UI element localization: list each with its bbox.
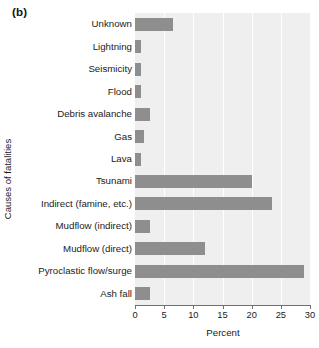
bar — [135, 18, 173, 31]
gridline — [223, 13, 224, 305]
x-axis-tick — [310, 305, 311, 309]
bar — [135, 287, 150, 300]
category-label: Pyroclastic flow/surge — [16, 266, 132, 276]
x-axis-tick-label: 15 — [217, 310, 227, 320]
y-axis-title: Causes of fatalities — [0, 104, 15, 254]
bar — [135, 130, 144, 143]
category-label: Mudflow (indirect) — [16, 221, 132, 231]
gridline — [310, 13, 311, 305]
gridline — [252, 13, 253, 305]
bar — [135, 242, 205, 255]
x-axis-tick-label: 20 — [246, 310, 256, 320]
category-label: Tsunami — [16, 176, 132, 186]
category-label: Ash fall — [16, 289, 132, 299]
bar — [135, 265, 304, 278]
x-axis-tick-label: 25 — [276, 310, 286, 320]
gridline — [193, 13, 194, 305]
category-label: Lightning — [16, 42, 132, 52]
x-axis-tick — [193, 305, 194, 309]
y-axis-title-text: Causes of fatalities — [2, 139, 13, 219]
x-axis-tick — [252, 305, 253, 309]
category-label: Lava — [16, 154, 132, 164]
category-label: Mudflow (direct) — [16, 244, 132, 254]
x-axis-tick — [281, 305, 282, 309]
figure-panel-b: (b) Causes of fatalities UnknownLightnin… — [0, 0, 319, 348]
x-axis-tick — [164, 305, 165, 309]
category-labels: UnknownLightningSeismicityFloodDebris av… — [16, 13, 132, 305]
gridline — [281, 13, 282, 305]
plot-area — [135, 13, 310, 305]
bar — [135, 197, 272, 210]
bar — [135, 153, 141, 166]
category-label: Flood — [16, 87, 132, 97]
bar — [135, 220, 150, 233]
x-axis-tick-label: 10 — [188, 310, 198, 320]
x-axis-title: Percent — [135, 327, 311, 338]
bar — [135, 108, 150, 121]
bar — [135, 40, 141, 53]
bar — [135, 175, 252, 188]
x-axis-tick-label: 5 — [162, 310, 167, 320]
bar — [135, 85, 141, 98]
category-label: Indirect (famine, etc.) — [16, 199, 132, 209]
category-label: Debris avalanche — [16, 109, 132, 119]
x-axis-tick — [135, 305, 136, 309]
gridline — [164, 13, 165, 305]
category-label: Seismicity — [16, 64, 132, 74]
x-axis-tick-label: 30 — [305, 310, 315, 320]
bar — [135, 63, 141, 76]
x-axis-tick-label: 0 — [132, 310, 137, 320]
x-axis-tick — [223, 305, 224, 309]
category-label: Unknown — [16, 19, 132, 29]
category-label: Gas — [16, 132, 132, 142]
